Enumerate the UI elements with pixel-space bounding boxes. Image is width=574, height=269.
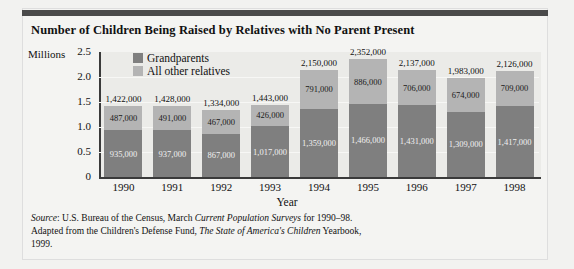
bar-segment-other-relatives: 487,000 — [104, 106, 142, 130]
bar-total-label: 1,334,000 — [193, 98, 249, 108]
bar-group: 1,422,000487,000935,000 — [104, 106, 142, 177]
source-line2-italic: Surveys — [271, 213, 301, 223]
bar-group: 2,126,000709,0001,417,000 — [496, 71, 534, 177]
x-axis-tick: 1992 — [197, 181, 246, 193]
bar-segment-label: 1,017,000 — [251, 147, 289, 157]
y-axis-tick: 0 — [57, 170, 91, 182]
bar-group: 1,334,000467,000867,000 — [202, 110, 240, 177]
bar-segment-other-relatives: 426,000 — [251, 105, 289, 126]
bar-segment-label: 867,000 — [202, 150, 240, 160]
x-axis-tick: 1993 — [246, 181, 295, 193]
bar-segment-other-relatives: 709,000 — [496, 71, 534, 106]
legend-label-other-relatives: All other relatives — [147, 65, 230, 77]
bar-total-label: 2,352,000 — [340, 47, 396, 57]
bar-segment-grandparents: 1,309,000 — [447, 112, 485, 177]
bar-segment-label: 467,000 — [202, 117, 240, 127]
y-axis-tick: 1.5 — [57, 95, 91, 107]
bar-group: 2,150,000791,0001,359,000 — [300, 70, 338, 178]
x-axis-title: Year — [0, 196, 574, 208]
y-axis-tick: 2.0 — [57, 70, 91, 82]
bar-segment-label: 1,466,000 — [349, 135, 387, 145]
bar-segment-grandparents: 1,417,000 — [496, 106, 534, 177]
source-prefix: Source — [31, 213, 57, 223]
y-axis-tick: 2.5 — [57, 45, 91, 57]
bar-segment-grandparents: 1,017,000 — [251, 126, 289, 177]
bar-segment-grandparents: 1,359,000 — [300, 109, 338, 177]
bar-segment-grandparents: 935,000 — [104, 130, 142, 177]
bar-segment-other-relatives: 467,000 — [202, 110, 240, 133]
bar-total-label: 1,422,000 — [95, 94, 151, 104]
bar-total-label: 1,983,000 — [438, 66, 494, 76]
bar-segment-label: 791,000 — [300, 84, 338, 94]
legend: Grandparents All other relatives — [133, 52, 230, 78]
bar-total-label: 2,137,000 — [389, 58, 445, 68]
bar-segment-grandparents: 1,431,000 — [398, 105, 436, 177]
bar-segment-other-relatives: 706,000 — [398, 70, 436, 105]
bar-segment-grandparents: 937,000 — [153, 130, 191, 177]
legend-label-grandparents: Grandparents — [147, 52, 209, 64]
bar-segment-label: 709,000 — [496, 83, 534, 93]
x-axis-tick: 1996 — [392, 181, 441, 193]
bar-segment-label: 1,359,000 — [300, 138, 338, 148]
bar-group: 1,428,000491,000937,000 — [153, 106, 191, 177]
chart-title: Number of Children Being Raised by Relat… — [31, 23, 415, 38]
top-rule — [22, 10, 548, 16]
y-axis-tick: 0.5 — [57, 145, 91, 157]
source-line3-italic: The State of America's Children — [199, 226, 320, 236]
bar-total-label: 1,443,000 — [242, 93, 298, 103]
bar-segment-label: 487,000 — [104, 113, 142, 123]
bar-segment-label: 426,000 — [251, 110, 289, 120]
bar-segment-label: 674,000 — [447, 90, 485, 100]
bar-group: 1,983,000674,0001,309,000 — [447, 78, 485, 177]
bar-segment-label: 886,000 — [349, 77, 387, 87]
x-axis-tick: 1998 — [490, 181, 539, 193]
bar-segment-other-relatives: 491,000 — [153, 106, 191, 131]
bar-total-label: 1,428,000 — [144, 94, 200, 104]
y-axis-tick: 1.0 — [57, 120, 91, 132]
bar-segment-label: 935,000 — [104, 149, 142, 159]
legend-item-grandparents: Grandparents — [133, 52, 230, 64]
bar-segment-label: 706,000 — [398, 83, 436, 93]
source-note: Source: U.S. Bureau of the Census, March… — [31, 212, 381, 251]
bar-total-label: 2,150,000 — [291, 58, 347, 68]
bar-total-label: 2,126,000 — [487, 59, 543, 69]
bar-segment-label: 1,417,000 — [496, 137, 534, 147]
bar-group: 1,443,000426,0001,017,000 — [251, 105, 289, 177]
legend-item-other-relatives: All other relatives — [133, 65, 230, 77]
bar-segment-other-relatives: 674,000 — [447, 78, 485, 112]
x-axis-tick: 1994 — [295, 181, 344, 193]
legend-swatch-grandparents — [133, 53, 143, 63]
bar-segment-label: 1,431,000 — [398, 136, 436, 146]
bar-segment-other-relatives: 886,000 — [349, 59, 387, 103]
x-axis-tick: 1997 — [441, 181, 490, 193]
source-line1-a: : U.S. Bureau of the Census, March — [57, 213, 195, 223]
bar-group: 2,352,000886,0001,466,000 — [349, 59, 387, 177]
bar-group: 2,137,000706,0001,431,000 — [398, 70, 436, 177]
bar-segment-other-relatives: 791,000 — [300, 70, 338, 110]
bar-segment-grandparents: 1,466,000 — [349, 104, 387, 177]
legend-swatch-other-relatives — [133, 66, 143, 76]
bar-segment-grandparents: 867,000 — [202, 134, 240, 177]
x-axis-tick: 1991 — [148, 181, 197, 193]
x-axis-tick: 1990 — [99, 181, 148, 193]
bar-segment-label: 1,309,000 — [447, 139, 485, 149]
source-line1-italic: Current Population — [195, 213, 269, 223]
x-axis-tick: 1995 — [343, 181, 392, 193]
bar-segment-label: 937,000 — [153, 149, 191, 159]
x-axis-line — [99, 177, 541, 179]
bar-segment-label: 491,000 — [153, 113, 191, 123]
figure: Number of Children Being Raised by Relat… — [0, 0, 574, 269]
